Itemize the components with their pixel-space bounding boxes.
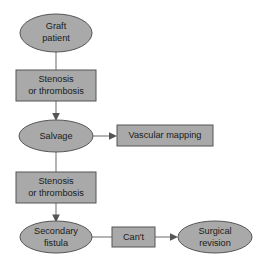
node-cant-label: Can't — [123, 232, 145, 242]
node-graft-patient-line1: Graft — [46, 21, 67, 31]
connector-stenosis-2-to-secondary-fistula — [52, 203, 60, 223]
node-vascular-mapping-label: Vascular mapping — [129, 130, 202, 140]
node-salvage[interactable]: Salvage — [19, 120, 93, 152]
node-cant[interactable]: Can't — [112, 227, 155, 247]
connector-salvage-to-vascular-mapping — [93, 132, 117, 140]
node-vascular-mapping[interactable]: Vascular mapping — [117, 125, 213, 146]
node-stenosis-thrombosis-2-line2: or thrombosis — [28, 188, 84, 198]
node-secondary-fistula-line2: fistula — [44, 238, 69, 248]
node-stenosis-thrombosis-2-line1: Stenosis — [38, 176, 74, 186]
node-graft-patient-line2: patient — [42, 33, 70, 43]
node-stenosis-thrombosis-1[interactable]: Stenosis or thrombosis — [16, 70, 96, 101]
node-secondary-fistula-line1: Secondary — [34, 226, 78, 236]
flowchart-canvas: Graft patient Stenosis or thrombosis Sal… — [0, 0, 256, 268]
node-stenosis-thrombosis-1-line1: Stenosis — [38, 74, 74, 84]
node-stenosis-thrombosis-2[interactable]: Stenosis or thrombosis — [16, 172, 96, 203]
node-stenosis-thrombosis-1-line2: or thrombosis — [28, 86, 84, 96]
connector-cant-to-surgical-revision — [155, 233, 178, 241]
node-salvage-label: Salvage — [39, 131, 72, 141]
node-secondary-fistula[interactable]: Secondary fistula — [20, 221, 92, 253]
node-surgical-revision-line1: Surgical — [198, 226, 231, 236]
flowchart-diagram: Graft patient Stenosis or thrombosis Sal… — [0, 0, 256, 268]
node-surgical-revision-line2: revision — [199, 238, 231, 248]
node-surgical-revision[interactable]: Surgical revision — [178, 221, 252, 253]
node-graft-patient[interactable]: Graft patient — [20, 14, 92, 52]
connector-stenosis-1-to-salvage — [52, 101, 60, 121]
